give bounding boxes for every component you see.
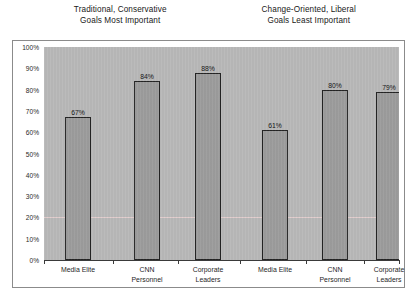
x-axis-category-label-line2: Personnel [319, 275, 350, 285]
x-axis-tick [178, 260, 179, 264]
x-axis-category-label: CorporateLeaders [374, 265, 405, 284]
y-axis-tick-label: 50% [26, 150, 39, 157]
chart-title-left-line1: Traditional, Conservative [26, 4, 215, 15]
chart-figure: Traditional, Conservative Goals Most Imp… [0, 0, 417, 302]
bar-value-label: 80% [317, 82, 353, 89]
x-axis-tick [44, 260, 45, 264]
x-axis-tick [240, 260, 241, 264]
x-axis-category-label-line1: Corporate [193, 265, 224, 275]
x-axis-category-label-line1: Media Elite [258, 265, 292, 275]
bar-value-label: 61% [257, 122, 293, 129]
x-axis-category-label-line2: Leaders [193, 275, 224, 285]
x-axis-category-label-line1: Corporate [374, 265, 405, 275]
bar-value-label: 79% [371, 84, 399, 91]
x-axis-tick [364, 260, 365, 264]
y-axis-tick-label: 0% [29, 257, 39, 264]
y-axis-tick-label: 10% [26, 235, 39, 242]
x-axis-category-label: Media Elite [61, 265, 95, 275]
y-axis-tick-label: 40% [26, 171, 39, 178]
x-axis-tick [306, 260, 307, 264]
chart-title-right-line1: Change-Oriented, Liberal [215, 4, 404, 15]
bar [65, 117, 91, 260]
y-axis-tick-label: 30% [26, 193, 39, 200]
x-axis-line [44, 260, 399, 261]
y-axis-tick-label: 70% [26, 107, 39, 114]
x-axis-category-label: CNNPersonnel [319, 265, 350, 284]
x-axis-category-label-line1: CNN [131, 265, 162, 275]
bar-value-label: 88% [190, 65, 226, 72]
bar [322, 90, 348, 260]
bar-value-label: 67% [60, 109, 96, 116]
chart-title-right: Change-Oriented, Liberal Goals Least Imp… [215, 4, 417, 36]
bar [376, 92, 399, 260]
chart-title-left-line2: Goals Most Important [26, 15, 215, 26]
x-axis-category-label-line2: Leaders [374, 275, 405, 285]
x-axis-category-label-line1: CNN [319, 265, 350, 275]
y-axis-tick-label: 100% [22, 44, 39, 51]
bar [134, 81, 160, 260]
x-axis-labels: Media EliteCNNPersonnelCorporateLeadersM… [44, 265, 399, 287]
bar [195, 73, 221, 260]
y-axis-tick-label: 60% [26, 129, 39, 136]
x-axis-category-label: CorporateLeaders [193, 265, 224, 284]
x-axis-tick [113, 260, 114, 264]
x-axis-category-label: CNNPersonnel [131, 265, 162, 284]
chart-title-left: Traditional, Conservative Goals Most Imp… [0, 4, 215, 36]
y-axis-tick-label: 80% [26, 86, 39, 93]
y-axis-tick-label: 20% [26, 214, 39, 221]
chart-panel: 0%10%20%30%40%50%60%70%80%90%100% 67%84%… [12, 40, 405, 288]
x-axis-category-label-line1: Media Elite [61, 265, 95, 275]
bar-value-label: 84% [129, 73, 165, 80]
x-axis-category-label: Media Elite [258, 265, 292, 275]
y-axis-tick-label: 90% [26, 65, 39, 72]
x-axis-category-label-line2: Personnel [131, 275, 162, 285]
chart-titles: Traditional, Conservative Goals Most Imp… [0, 4, 417, 36]
chart-title-right-line2: Goals Least Important [215, 15, 404, 26]
y-axis-labels: 0%10%20%30%40%50%60%70%80%90%100% [13, 47, 42, 260]
plot-area: 67%84%88%61%80%79% [44, 47, 399, 260]
x-axis-tick [399, 260, 400, 264]
bar [262, 130, 288, 260]
